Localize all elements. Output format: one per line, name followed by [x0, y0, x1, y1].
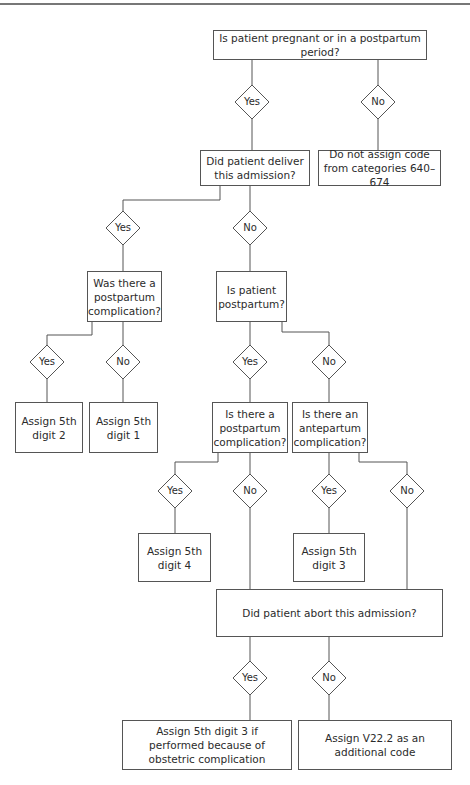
action_box-a-no-code: Do not assign code from categories 640–6… [318, 150, 441, 186]
decision_box-q-pp-comp2: Is there a postpartum complication? [212, 402, 288, 453]
decision_box-q-deliver: Did patient deliver this admission? [200, 150, 310, 186]
decision_box-q-is-pp: Is patient postpartum? [216, 271, 287, 322]
action_box-a-digit2: Assign 5th digit 2 [15, 402, 83, 453]
action_box-a-digit4: Assign 5th digit 4 [138, 533, 211, 582]
branch-label-yes: Yes [312, 485, 346, 497]
branch-label-yes: Yes [233, 356, 267, 368]
branch-label-yes: Yes [30, 356, 64, 368]
action_box-a-digit1: Assign 5th digit 1 [89, 402, 158, 453]
branch-label-no: No [233, 485, 267, 497]
flowchart-connectors [0, 0, 470, 785]
decision_box-q-ante-comp: Is there an antepartum complication? [292, 402, 368, 453]
branch-label-no: No [390, 485, 424, 497]
branch-label-yes: Yes [106, 222, 140, 234]
branch-label-yes: Yes [158, 485, 192, 497]
decision_box-q-abort: Did patient abort this admission? [216, 589, 443, 637]
action_box-a-digit3: Assign 5th digit 3 [293, 533, 365, 582]
branch-label-no: No [312, 672, 346, 684]
action_box-a-digit3-abort: Assign 5th digit 3 if performed because … [122, 720, 292, 770]
branch-label-no: No [233, 222, 267, 234]
branch-label-yes: Yes [235, 96, 269, 108]
branch-label-no: No [312, 356, 346, 368]
branch-label-no: No [361, 96, 395, 108]
connector-line [359, 453, 407, 474]
connector-line [282, 322, 329, 345]
connector-line [47, 322, 92, 345]
branch-label-yes: Yes [233, 672, 267, 684]
connector-line [175, 453, 218, 474]
decision_box-q-pregnant: Is patient pregnant or in a postpartum p… [213, 30, 427, 60]
decision_box-q-pp-comp: Was there a postpartum complication? [87, 271, 162, 322]
branch-label-no: No [106, 356, 140, 368]
connector-line [123, 186, 220, 211]
action_box-a-v222: Assign V22.2 as an additional code [298, 720, 452, 770]
